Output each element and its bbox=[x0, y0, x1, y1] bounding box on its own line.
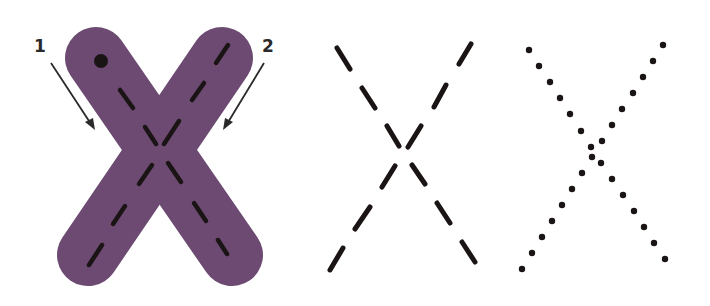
letter-x-worksheet bbox=[0, 0, 710, 306]
start-dot-icon bbox=[94, 54, 108, 68]
dashed-letter-x bbox=[330, 44, 475, 270]
solid-letter-x bbox=[88, 45, 232, 265]
dotted-letter-x bbox=[519, 42, 668, 272]
stroke-1-number: 1 bbox=[34, 36, 46, 56]
stroke-2-number: 2 bbox=[262, 36, 274, 56]
